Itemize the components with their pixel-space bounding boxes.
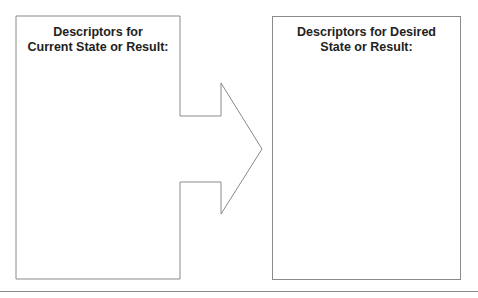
desired-state-title: Descriptors for Desired State or Result:: [272, 25, 461, 55]
desired-state-title-line1: Descriptors for Desired: [272, 25, 461, 40]
desired-state-title-line2: State or Result:: [272, 40, 461, 55]
current-state-title-line2: Current State or Result:: [16, 40, 180, 55]
desired-state-box: [273, 17, 461, 280]
current-state-title-line1: Descriptors for: [16, 25, 180, 40]
current-state-box-with-arrow: [16, 16, 262, 279]
current-state-title: Descriptors for Current State or Result:: [16, 25, 180, 55]
